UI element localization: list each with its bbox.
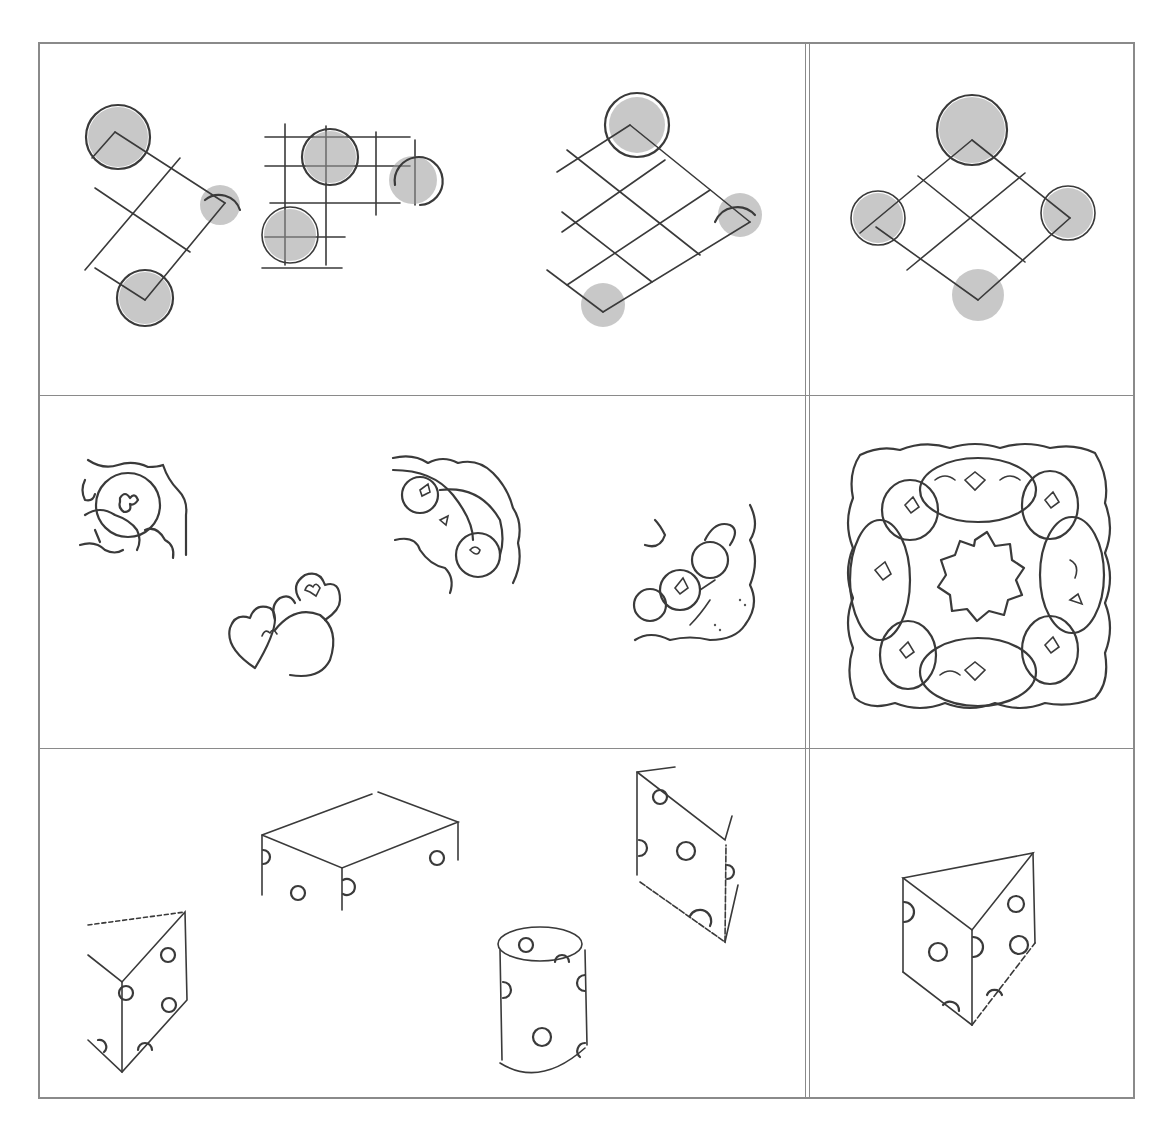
prism-target-drawing [0,0,1170,1144]
